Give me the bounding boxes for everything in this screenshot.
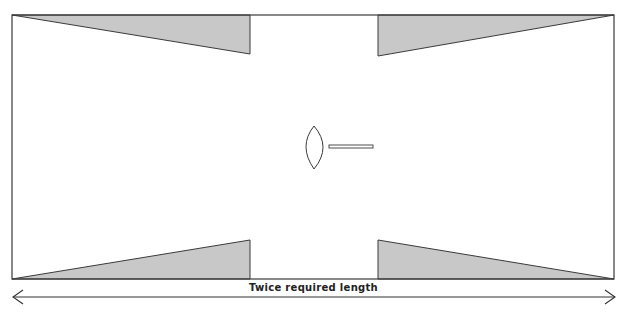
wedge-top-right xyxy=(378,15,614,56)
length-label: Twice required length xyxy=(247,282,380,293)
lens-with-handle-icon xyxy=(306,126,373,169)
length-label-container: Twice required length xyxy=(0,282,627,293)
wedge-top-left xyxy=(12,15,250,54)
wedge-bottom-right xyxy=(378,240,614,279)
diagram-canvas xyxy=(0,0,627,317)
wedge-bottom-left xyxy=(12,240,250,279)
